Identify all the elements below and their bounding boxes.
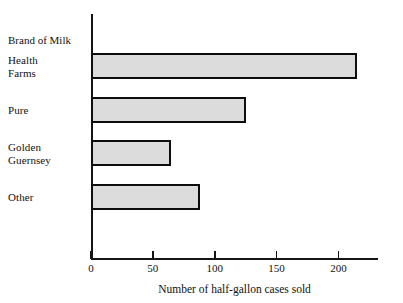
category-label-health-farms: Health Farms <box>8 54 88 79</box>
x-tick-label-100: 100 <box>206 262 223 275</box>
x-axis-title: Number of half-gallon cases sold <box>91 282 378 296</box>
x-tick-200 <box>338 251 340 259</box>
x-tick-label-150: 150 <box>268 262 285 275</box>
x-tick-label-50: 50 <box>147 262 158 275</box>
category-label-other: Other <box>8 191 88 204</box>
x-tick-150 <box>276 251 278 259</box>
plot-area: Brand of Milk Health Farms Pure Golden G… <box>0 0 403 303</box>
bar-health-farms <box>91 53 357 79</box>
chart-figure: Brand of Milk Health Farms Pure Golden G… <box>0 0 403 303</box>
bar-golden-guernsey <box>91 140 171 166</box>
bar-other <box>91 184 200 210</box>
x-axis-line <box>91 258 378 260</box>
bar-pure <box>91 97 246 123</box>
x-tick-0 <box>90 251 92 259</box>
x-tick-label-200: 200 <box>330 262 347 275</box>
x-tick-label-0: 0 <box>88 262 94 275</box>
category-label-pure: Pure <box>8 104 88 117</box>
x-tick-50 <box>152 251 154 259</box>
y-axis-line <box>91 14 93 259</box>
y-axis-title: Brand of Milk <box>8 34 92 47</box>
category-label-golden-guernsey: Golden Guernsey <box>8 141 88 166</box>
x-tick-100 <box>214 251 216 259</box>
